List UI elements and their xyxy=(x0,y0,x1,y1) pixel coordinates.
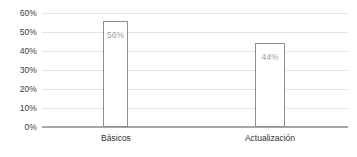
gridline xyxy=(42,13,348,14)
axis-baseline xyxy=(42,126,348,128)
gridline xyxy=(42,89,348,90)
y-tick-label: 50% xyxy=(1,28,37,37)
y-tick-label: 40% xyxy=(1,47,37,56)
x-tick-label-actualizacion: Actualización xyxy=(220,134,320,143)
y-axis: 60% 50% 40% 30% 20% 10% 0% xyxy=(0,0,40,157)
y-tick-label: 10% xyxy=(1,104,37,113)
bar-value-label: 44% xyxy=(256,53,284,62)
y-tick-label: 20% xyxy=(1,85,37,94)
gridline xyxy=(42,70,348,71)
x-axis: Básicos Actualización xyxy=(42,134,348,154)
bar-actualizacion[interactable]: 44% xyxy=(255,43,285,127)
bar-basicos[interactable]: 56% xyxy=(103,21,128,127)
y-tick-label: 0% xyxy=(1,123,37,132)
gridline xyxy=(42,32,348,33)
gridline xyxy=(42,108,348,109)
gridline xyxy=(42,51,348,52)
x-tick-label-basicos: Básicos xyxy=(66,134,166,143)
plot-area: 56% 44% xyxy=(42,13,348,127)
bar-chart: 60% 50% 40% 30% 20% 10% 0% 56% 44% Básic… xyxy=(0,0,357,157)
bar-value-label: 56% xyxy=(104,31,127,40)
y-tick-label: 30% xyxy=(1,66,37,75)
y-tick-label: 60% xyxy=(1,9,37,18)
